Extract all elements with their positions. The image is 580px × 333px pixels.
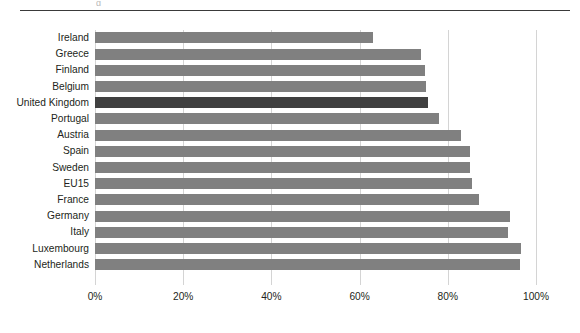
bar-sweden [95, 162, 470, 173]
top-horizontal-rule [20, 10, 570, 11]
bar-row [95, 208, 536, 224]
bar-row [95, 79, 536, 95]
category-label-germany: Germany [0, 208, 92, 224]
bar-ireland [95, 32, 373, 43]
x-tick-label: 60% [349, 290, 369, 304]
bar-finland [95, 65, 425, 76]
bar-row [95, 192, 536, 208]
category-label-netherlands: Netherlands [0, 257, 92, 273]
bar-row [95, 111, 536, 127]
bar-row [95, 143, 536, 159]
category-label-italy: Italy [0, 224, 92, 240]
category-label-france: France [0, 192, 92, 208]
category-label-luxembourg: Luxembourg [0, 241, 92, 257]
category-label-greece: Greece [0, 46, 92, 62]
category-label-finland: Finland [0, 62, 92, 78]
plot-area [95, 30, 536, 285]
bar-rows [95, 30, 536, 285]
clipped-title-descender: g [96, 0, 106, 6]
bar-eu15 [95, 178, 472, 189]
bar-austria [95, 130, 461, 141]
x-tick-label: 40% [261, 290, 281, 304]
bar-row [95, 160, 536, 176]
bar-row [95, 257, 536, 273]
bar-spain [95, 146, 470, 157]
category-label-sweden: Sweden [0, 160, 92, 176]
bar-row [95, 127, 536, 143]
gridline-100pct [536, 30, 537, 285]
category-label-united-kingdom: United Kingdom [0, 95, 92, 111]
bar-belgium [95, 81, 426, 92]
x-tick-label: 80% [438, 290, 458, 304]
bar-row [95, 62, 536, 78]
category-label-eu15: EU15 [0, 176, 92, 192]
x-tick-label: 100% [523, 290, 549, 304]
x-tick-label: 0% [88, 290, 103, 304]
bar-row [95, 176, 536, 192]
category-label-ireland: Ireland [0, 30, 92, 46]
bar-italy [95, 227, 508, 238]
bar-row [95, 224, 536, 240]
bar-united-kingdom [95, 97, 428, 108]
category-label-austria: Austria [0, 127, 92, 143]
x-axis-tick-labels: 0%20%40%60%80%100% [0, 290, 580, 310]
bar-greece [95, 49, 421, 60]
chart-figure: g IrelandGreeceFinlandBelgiumUnited King… [0, 0, 580, 333]
bar-row [95, 95, 536, 111]
bar-luxembourg [95, 243, 521, 254]
bar-germany [95, 211, 510, 222]
category-label-belgium: Belgium [0, 79, 92, 95]
bar-row [95, 30, 536, 46]
category-label-portugal: Portugal [0, 111, 92, 127]
bar-france [95, 194, 479, 205]
category-axis-labels: IrelandGreeceFinlandBelgiumUnited Kingdo… [0, 30, 92, 285]
category-label-spain: Spain [0, 143, 92, 159]
bar-netherlands [95, 259, 520, 270]
bar-portugal [95, 113, 439, 124]
bar-row [95, 46, 536, 62]
bar-row [95, 241, 536, 257]
x-tick-label: 20% [173, 290, 193, 304]
